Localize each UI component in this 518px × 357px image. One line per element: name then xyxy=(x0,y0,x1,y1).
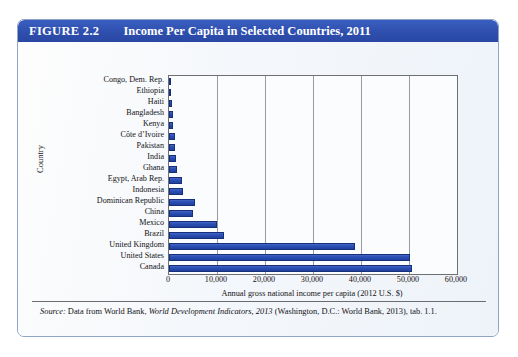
bar-row xyxy=(169,219,457,230)
bar-row xyxy=(169,153,457,164)
bar xyxy=(169,254,410,261)
bar xyxy=(169,100,172,107)
category-axis-labels: Congo, Dem. Rep.EthiopiaHaitiBangladeshK… xyxy=(54,75,167,273)
bar-row xyxy=(169,208,457,219)
bar-row xyxy=(169,142,457,153)
bar xyxy=(169,144,175,151)
x-tick-label: 40,000 xyxy=(349,275,371,284)
category-label: China xyxy=(54,207,167,218)
category-label: Ethiopia xyxy=(54,86,167,97)
figure-title: Income Per Capita in Selected Countries,… xyxy=(123,24,370,39)
bar-row xyxy=(169,76,457,87)
figure-number: FIGURE 2.2 xyxy=(29,24,99,39)
x-tick-label: 50,000 xyxy=(397,275,419,284)
source-note: Source: Data from World Bank, World Deve… xyxy=(40,306,480,318)
bar-row xyxy=(169,98,457,109)
x-axis-title: Annual gross national income per capita … xyxy=(168,289,456,298)
bar-row xyxy=(169,186,457,197)
bar xyxy=(169,232,224,239)
category-label: Congo, Dem. Rep. xyxy=(54,75,167,86)
category-label: Ghana xyxy=(54,163,167,174)
source-text-1: Data from World Bank, xyxy=(66,307,149,316)
source-publication-title: World Development Indicators, 2013 xyxy=(149,307,273,316)
bar xyxy=(169,221,217,228)
bar xyxy=(169,155,176,162)
category-label: United States xyxy=(54,251,167,262)
source-divider xyxy=(32,301,486,302)
bar-row xyxy=(169,175,457,186)
bar-row xyxy=(169,120,457,131)
plot-area xyxy=(168,75,458,275)
bar xyxy=(169,199,195,206)
bar-row xyxy=(169,164,457,175)
y-axis-title: Country xyxy=(35,129,45,189)
category-label: Pakistan xyxy=(54,141,167,152)
bar xyxy=(169,78,171,85)
bar xyxy=(169,210,193,217)
category-label: Egypt, Arab Rep. xyxy=(54,174,167,185)
x-tick-label: 10,000 xyxy=(205,275,227,284)
bar-row xyxy=(169,241,457,252)
figure-container: FIGURE 2.2 Income Per Capita in Selected… xyxy=(17,19,499,337)
category-label: United Kingdom xyxy=(54,240,167,251)
category-label: Haiti xyxy=(54,97,167,108)
category-label: Kenya xyxy=(54,119,167,130)
bar-row xyxy=(169,131,457,142)
bar-row xyxy=(169,87,457,98)
bar-row xyxy=(169,109,457,120)
figure-title-bar: FIGURE 2.2 Income Per Capita in Selected… xyxy=(18,20,498,42)
bar xyxy=(169,243,355,250)
category-label: Indonesia xyxy=(54,185,167,196)
x-axis-tick-labels: 010,00020,00030,00040,00050,00060,000 xyxy=(168,275,456,289)
bar xyxy=(169,265,412,272)
category-label: Mexico xyxy=(54,218,167,229)
bar xyxy=(169,89,171,96)
bar xyxy=(169,166,177,173)
category-label: Côte d’Ivoire xyxy=(54,130,167,141)
chart-area: Country Congo, Dem. Rep.EthiopiaHaitiBan… xyxy=(18,42,499,294)
bars-layer xyxy=(169,76,457,274)
category-label: Brazil xyxy=(54,229,167,240)
category-label: Dominican Republic xyxy=(54,196,167,207)
x-tick-label: 20,000 xyxy=(253,275,275,284)
x-tick-label: 0 xyxy=(166,275,170,284)
bar-row xyxy=(169,230,457,241)
bar-row xyxy=(169,252,457,263)
bar xyxy=(169,122,173,129)
bar xyxy=(169,188,183,195)
bar-row xyxy=(169,263,457,274)
source-text-2: (Washington, D.C.: World Bank, 2013), ta… xyxy=(273,307,437,316)
category-label: India xyxy=(54,152,167,163)
category-label: Canada xyxy=(54,262,167,273)
category-label: Bangladesh xyxy=(54,108,167,119)
bar xyxy=(169,177,182,184)
source-label: Source: xyxy=(40,307,66,316)
bar xyxy=(169,133,175,140)
bar-row xyxy=(169,197,457,208)
x-tick-label: 30,000 xyxy=(301,275,323,284)
x-tick-label: 60,000 xyxy=(445,275,467,284)
bar xyxy=(169,111,173,118)
